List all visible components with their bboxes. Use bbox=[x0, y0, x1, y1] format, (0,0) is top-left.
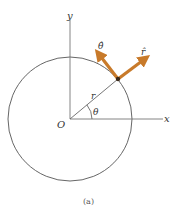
figure-caption: (a) bbox=[83, 197, 94, 206]
radius-label: r bbox=[91, 91, 96, 101]
angle-arc bbox=[87, 105, 92, 119]
origin-label: O bbox=[57, 119, 65, 130]
point-marker bbox=[116, 77, 120, 81]
r-hat-arrow bbox=[118, 58, 146, 79]
theta-hat-arrow bbox=[98, 53, 118, 79]
x-axis-label: x bbox=[164, 113, 170, 124]
polar-coordinates-diagram: y x O r θ r̂ θ̂ (a) bbox=[0, 0, 179, 216]
angle-label: θ bbox=[93, 107, 99, 117]
theta-hat-label: θ̂ bbox=[98, 41, 104, 51]
r-hat-label: r̂ bbox=[141, 47, 146, 57]
y-axis-label: y bbox=[66, 10, 73, 21]
